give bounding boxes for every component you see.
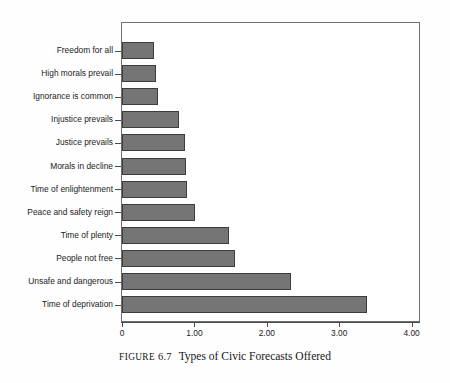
category-tick (115, 120, 121, 121)
bar (122, 227, 229, 244)
x-tick (412, 322, 413, 327)
bars-layer (122, 22, 420, 322)
bar (122, 181, 187, 198)
x-axis-line (121, 322, 420, 323)
caption-text: Types of Civic Forecasts Offered (179, 350, 331, 362)
category-tick (115, 282, 121, 283)
category-tick (115, 235, 121, 236)
category-label: Morals in decline (50, 158, 113, 175)
x-tick (122, 322, 123, 327)
category-tick (115, 166, 121, 167)
category-label: Justice prevails (56, 134, 113, 151)
caption-number: 6.7 (158, 351, 172, 362)
category-label: Time of deprivation (42, 296, 113, 313)
bar (122, 296, 367, 313)
category-tick (115, 74, 121, 75)
caption-prefix: FIGURE (119, 352, 155, 362)
bar (122, 204, 195, 221)
category-tick (115, 143, 121, 144)
category-label: Time of enlightenment (30, 181, 113, 198)
bar (122, 158, 186, 175)
x-tick-label: 4.00 (403, 328, 419, 338)
x-tick-label: 2.00 (259, 328, 275, 338)
figure-container: Freedom for allHigh morals prevailIgnora… (0, 0, 450, 383)
bar (122, 65, 156, 82)
category-tick (115, 258, 121, 259)
figure-caption: FIGURE 6.7 Types of Civic Forecasts Offe… (0, 350, 450, 362)
x-tick-label: 0 (120, 328, 125, 338)
category-tick (115, 51, 121, 52)
x-tick-label: 1.00 (186, 328, 202, 338)
category-tick (115, 305, 121, 306)
x-tick-label: 3.00 (331, 328, 347, 338)
x-tick (194, 322, 195, 327)
category-label: Unsafe and dangerous (28, 273, 113, 290)
category-tick (115, 212, 121, 213)
category-label: High morals prevail (41, 65, 113, 82)
category-label: Ignorance is common (33, 88, 113, 105)
x-tick (339, 322, 340, 327)
bar (122, 273, 291, 290)
category-axis: Freedom for allHigh morals prevailIgnora… (0, 22, 121, 322)
category-label: People not free (56, 250, 113, 267)
category-tick (115, 189, 121, 190)
category-label: Time of plenty (61, 227, 113, 244)
category-label: Peace and safety reign (27, 204, 113, 221)
bar (122, 111, 179, 128)
category-label: Injustice prevails (51, 111, 113, 128)
bar (122, 42, 154, 59)
category-label: Freedom for all (57, 42, 113, 59)
category-tick (115, 97, 121, 98)
bar (122, 134, 185, 151)
x-tick (267, 322, 268, 327)
bar (122, 250, 235, 267)
bar (122, 88, 158, 105)
